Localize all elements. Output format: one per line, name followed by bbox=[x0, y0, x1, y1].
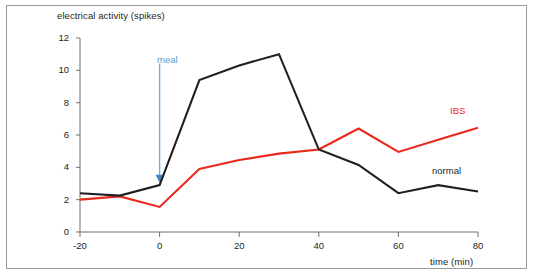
series-line-ibs bbox=[80, 128, 478, 207]
y-tick-label: 6 bbox=[47, 129, 69, 140]
y-tick-label: 12 bbox=[47, 32, 69, 43]
meal-annotation-label: meal bbox=[157, 54, 178, 65]
y-axis bbox=[76, 38, 80, 232]
series-line-normal bbox=[80, 54, 478, 195]
x-tick-label: -20 bbox=[65, 240, 95, 251]
y-tick-label: 2 bbox=[47, 194, 69, 205]
series-label-normal: normal bbox=[432, 165, 461, 176]
y-tick-label: 4 bbox=[47, 161, 69, 172]
chart-figure: electrical activity (spikes) time (min) … bbox=[0, 0, 533, 279]
series-label-ibs: IBS bbox=[450, 105, 465, 116]
y-axis-title: electrical activity (spikes) bbox=[57, 10, 165, 21]
y-tick-label: 10 bbox=[47, 64, 69, 75]
x-axis bbox=[80, 232, 478, 237]
x-axis-title: time (min) bbox=[430, 256, 473, 267]
x-tick-label: 20 bbox=[224, 240, 254, 251]
meal-annotation-arrow bbox=[156, 63, 164, 182]
y-tick-label: 8 bbox=[47, 97, 69, 108]
x-tick-label: 0 bbox=[145, 240, 175, 251]
x-tick-label: 60 bbox=[383, 240, 413, 251]
line-chart-plot-area bbox=[0, 0, 533, 279]
x-tick-label: 80 bbox=[463, 240, 493, 251]
x-tick-label: 40 bbox=[304, 240, 334, 251]
y-tick-label: 0 bbox=[47, 226, 69, 237]
